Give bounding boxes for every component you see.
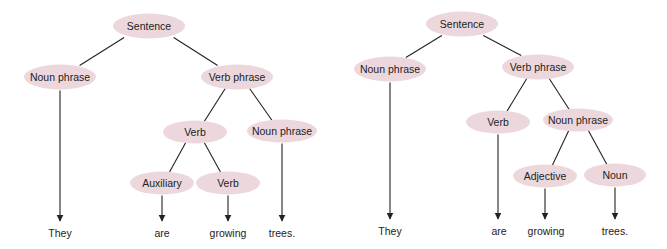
node-label: Sentence <box>127 20 172 32</box>
tree-node-noun-phrase: Noun phrase <box>24 65 96 90</box>
word-they: They <box>378 225 402 237</box>
word-growing: growing <box>210 227 247 239</box>
word-they: They <box>48 227 72 239</box>
tree-edge <box>483 36 521 56</box>
word-are: are <box>154 227 169 239</box>
node-label: Noun <box>602 169 627 181</box>
tree-node-verb-phrase: Verb phrase <box>502 55 574 80</box>
node-label: Verb <box>184 126 206 138</box>
word-trees: trees. <box>602 225 628 237</box>
node-label: Sentence <box>440 18 485 30</box>
node-label: Verb <box>217 177 239 189</box>
tree-edge <box>406 36 442 58</box>
word-growing: growing <box>528 225 565 237</box>
tree-node-noun-phrase: Noun phrase <box>354 57 426 82</box>
tree-edge <box>588 131 607 165</box>
tree-node-sentence: Sentence <box>426 12 498 37</box>
word-arrows <box>60 83 615 222</box>
node-label: Auxiliary <box>142 177 182 189</box>
tree-node-sentence: Sentence <box>113 14 185 39</box>
tree-node-noun-phrase: Noun phrase <box>247 120 317 143</box>
node-label: Noun phrase <box>548 114 608 126</box>
tree-edge <box>204 89 225 122</box>
tree-edge <box>549 79 569 110</box>
tree-node-auxiliary: Auxiliary <box>130 172 194 195</box>
tree-edge <box>250 89 273 121</box>
tree-node-noun-phrase: Noun phrase <box>543 109 613 132</box>
tree-node-verb: Verb <box>466 111 530 134</box>
tree-node-verb: Verb <box>163 121 227 144</box>
node-label: Noun phrase <box>30 71 90 83</box>
node-label: Verb phrase <box>209 71 266 83</box>
tree-edge <box>552 131 569 166</box>
tree-node-adjective: Adjective <box>513 165 577 188</box>
tree-edge <box>507 79 527 112</box>
node-label: Verb <box>487 116 509 128</box>
node-label: Adjective <box>524 170 567 182</box>
parse-tree-diagram: SentenceNoun phraseVerb phraseVerbNoun p… <box>0 0 667 249</box>
node-label: Noun phrase <box>252 125 312 137</box>
word-are: are <box>491 225 506 237</box>
tree-edge <box>80 38 125 66</box>
node-label: Verb phrase <box>510 61 567 73</box>
tree-node-verb-phrase: Verb phrase <box>201 65 273 90</box>
tree-edge <box>169 143 186 173</box>
tree-nodes: SentenceNoun phraseVerb phraseVerbNoun p… <box>24 12 646 195</box>
tree-node-verb: Verb <box>196 172 260 195</box>
tree-edge <box>204 143 221 173</box>
node-label: Noun phrase <box>360 63 420 75</box>
word-trees: trees. <box>269 227 295 239</box>
tree-node-noun: Noun <box>584 164 646 187</box>
tree-edge <box>174 38 218 66</box>
sentence-words: Theyaregrowingtrees.Theyaregrowingtrees. <box>48 225 628 239</box>
